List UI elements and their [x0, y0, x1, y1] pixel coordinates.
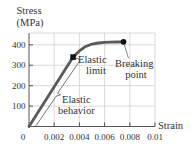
- elastic-limit-label-line2: limit: [86, 65, 106, 76]
- breaking-point-marker: [121, 39, 127, 45]
- breaking-point-label-line2: point: [125, 69, 147, 80]
- x-tick-label: 0.006: [94, 132, 115, 142]
- x-tick-label: 0.01: [147, 132, 163, 142]
- y-axis-title-line1: Stress: [16, 5, 41, 16]
- elastic-behavior-label-line1: Elastic: [62, 94, 91, 105]
- elastic-behavior-label-line2: behavior: [58, 105, 95, 116]
- elastic-limit-marker: [70, 54, 76, 60]
- y-axis-title-line2: (MPa): [17, 17, 44, 29]
- elastic-limit-label-line1: Elastic: [78, 54, 107, 65]
- x-tick-label: 0.004: [69, 132, 90, 142]
- y-tick-label: 400: [12, 40, 26, 50]
- x-tick-label: 0.002: [44, 132, 64, 142]
- x-tick-label: 0.008: [120, 132, 141, 142]
- origin-label: 0: [21, 132, 26, 142]
- y-tick-label: 300: [12, 60, 26, 70]
- stress-strain-chart: 0.0020.0040.0060.0080.01100200300400 Str…: [0, 0, 191, 154]
- breaking-point-label-line1: Breaking: [115, 58, 154, 69]
- breaking-point-leader-line: [124, 44, 129, 59]
- elastic-behavior-bracket: [36, 58, 80, 126]
- y-tick-label: 100: [12, 101, 26, 111]
- x-axis-title: Strain: [158, 120, 184, 131]
- y-tick-label: 200: [12, 81, 26, 91]
